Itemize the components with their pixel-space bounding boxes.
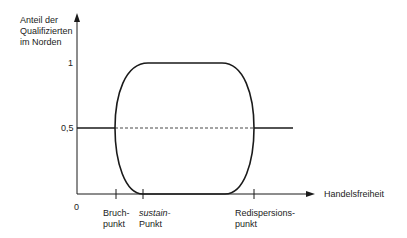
x-axis-arrow-icon	[306, 191, 315, 197]
lower-equilibrium-curve	[115, 128, 254, 194]
y-axis-label-line1: Anteil der	[20, 15, 73, 26]
y-tick-1: 1	[68, 58, 73, 69]
marker-redispersion-line2: punkt	[235, 219, 295, 230]
y-axis-arrow-icon	[74, 13, 80, 22]
marker-bruchpunkt: Bruch- punkt	[103, 208, 130, 230]
marker-sustain-line1: sustain-	[139, 208, 171, 219]
y-tick-0-5: 0,5	[61, 123, 74, 134]
y-axis-label-line3: im Norden	[20, 37, 73, 48]
y-axis-label: Anteil der Qualifizierten im Norden	[20, 15, 73, 48]
marker-sustain-line2: Punkt	[139, 219, 171, 230]
marker-redispersionspunkt: Redispersions- punkt	[235, 208, 295, 230]
x-axis-label: Handelsfreiheit	[324, 189, 384, 200]
marker-redispersion-line1: Redispersions-	[235, 208, 295, 219]
marker-bruchpunkt-line1: Bruch-	[103, 208, 130, 219]
marker-bruchpunkt-line2: punkt	[103, 219, 130, 230]
marker-sustain-punkt: sustain- Punkt	[139, 208, 171, 230]
y-axis-label-line2: Qualifizierten	[20, 26, 73, 37]
upper-equilibrium-curve	[115, 63, 254, 128]
origin-label: 0	[74, 202, 79, 213]
